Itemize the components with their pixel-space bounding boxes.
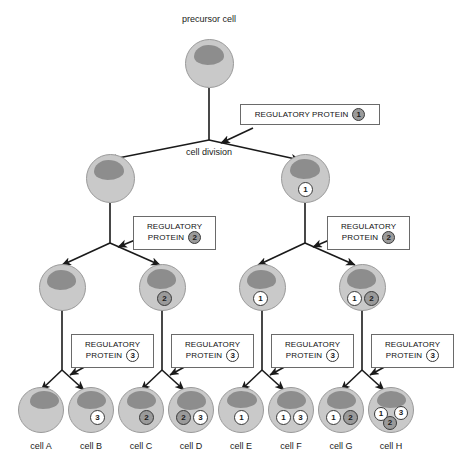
- cell-G-label: cell G: [329, 441, 352, 451]
- marker-protein-1: 1: [298, 182, 313, 197]
- marker-protein-2: 2: [157, 291, 172, 306]
- regulatory-protein-1-box[interactable]: REGULATORY PROTEIN 1: [240, 104, 380, 125]
- marker-protein-1: 1: [253, 291, 268, 306]
- regulatory-protein-3-box-2[interactable]: REGULATORY PROTEIN 3: [171, 334, 254, 368]
- marker-protein-3: 3: [293, 410, 308, 425]
- precursor-cell-label: precursor cell: [182, 14, 236, 24]
- cell-F-label: cell F: [280, 441, 302, 451]
- nucleus: [227, 391, 257, 408]
- cell-g2-4: 1 2: [339, 264, 386, 311]
- nucleus: [194, 45, 224, 65]
- rp3a-label-line1: REGULATORY: [77, 340, 148, 349]
- rp3a-badge: 3: [126, 349, 139, 362]
- rp3c-label-line1: REGULATORY: [277, 340, 348, 349]
- rp2b-label-line1: REGULATORY: [333, 222, 404, 231]
- cell-D-label: cell D: [180, 441, 203, 451]
- marker-protein-1: 1: [347, 291, 362, 306]
- regulatory-protein-3-box-4[interactable]: REGULATORY PROTEIN 3: [371, 334, 454, 368]
- cell-H: 1 3 2: [368, 387, 414, 433]
- nucleus: [30, 391, 59, 409]
- nucleus: [290, 159, 320, 179]
- nucleus: [247, 270, 276, 289]
- nucleus: [277, 391, 306, 409]
- cell-D: 2 3: [168, 387, 214, 433]
- cell-E: 1: [218, 387, 264, 433]
- cell-g2-3: 1: [239, 264, 286, 311]
- marker-protein-1: 1: [326, 410, 341, 425]
- cell-g2-2: 2: [139, 264, 186, 311]
- regulatory-protein-2-box-right[interactable]: REGULATORY PROTEIN 2: [327, 216, 410, 250]
- rp1-badge: 1: [352, 108, 365, 121]
- rp3d-badge: 3: [426, 349, 439, 362]
- rp3c-badge: 3: [326, 349, 339, 362]
- nucleus: [327, 391, 356, 409]
- cell-C-label: cell C: [130, 441, 153, 451]
- cell-E-label: cell E: [230, 441, 252, 451]
- marker-protein-2: 2: [364, 291, 379, 306]
- nucleus: [177, 391, 206, 410]
- cell-F: 1 3: [268, 387, 314, 433]
- marker-protein-3: 3: [193, 410, 208, 425]
- cell-A-label: cell A: [30, 441, 52, 451]
- marker-protein-2: 2: [176, 410, 191, 425]
- regulatory-protein-3-box-3[interactable]: REGULATORY PROTEIN 3: [271, 334, 354, 368]
- nucleus: [147, 269, 176, 289]
- marker-protein-2: 2: [383, 416, 397, 430]
- cell-precursor: [185, 39, 234, 88]
- cell-A: [18, 387, 64, 433]
- regulatory-protein-3-box-1[interactable]: REGULATORY PROTEIN 3: [71, 334, 154, 368]
- marker-protein-2: 2: [139, 410, 154, 425]
- nucleus: [94, 160, 124, 180]
- rp3c-label-line2: PROTEIN: [286, 351, 322, 360]
- rp3b-label-line2: PROTEIN: [186, 351, 222, 360]
- marker-protein-2: 2: [343, 410, 358, 425]
- nucleus: [77, 391, 106, 409]
- cell-lineage-diagram: precursor cell cell division REGULATORY …: [0, 0, 464, 467]
- rp3b-label-line1: REGULATORY: [177, 340, 248, 349]
- nucleus: [127, 391, 156, 409]
- rp3d-label-line1: REGULATORY: [377, 340, 448, 349]
- marker-protein-1: 1: [276, 410, 291, 425]
- rp2a-label-line2: PROTEIN: [148, 233, 184, 242]
- nucleus: [47, 270, 76, 290]
- cell-division-label: cell division: [186, 147, 232, 157]
- cell-G: 1 2: [318, 387, 364, 433]
- cell-g1-right: 1: [281, 154, 330, 203]
- marker-protein-1: 1: [234, 410, 249, 425]
- rp2a-badge: 2: [188, 231, 201, 244]
- rp2a-label-line1: REGULATORY: [139, 222, 210, 231]
- marker-protein-3: 3: [90, 410, 105, 425]
- cell-B: 3: [68, 387, 114, 433]
- marker-protein-3: 3: [394, 406, 408, 420]
- regulatory-protein-2-box-left[interactable]: REGULATORY PROTEIN 2: [133, 216, 216, 250]
- cell-B-label: cell B: [80, 441, 102, 451]
- cell-H-label: cell H: [380, 441, 403, 451]
- rp2b-badge: 2: [382, 231, 395, 244]
- cell-C: 2: [118, 387, 164, 433]
- rp2b-label-line2: PROTEIN: [342, 233, 378, 242]
- rp3d-label-line2: PROTEIN: [386, 351, 422, 360]
- cell-g2-1: [39, 264, 86, 311]
- nucleus: [347, 269, 376, 289]
- cell-g1-left: [86, 154, 135, 203]
- rp3a-label-line2: PROTEIN: [86, 351, 122, 360]
- rp1-label: REGULATORY PROTEIN: [255, 110, 349, 119]
- rp3b-badge: 3: [226, 349, 239, 362]
